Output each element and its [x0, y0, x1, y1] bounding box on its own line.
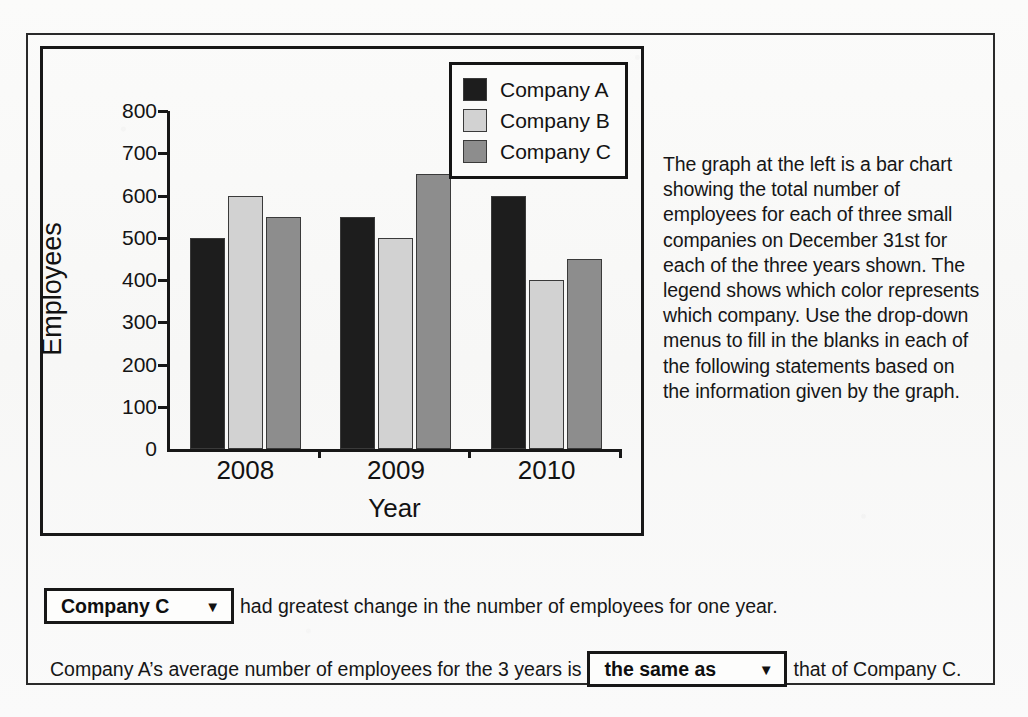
x-tick-label: 2009 [321, 455, 472, 486]
bar-company-a-2009 [340, 217, 375, 449]
company-dropdown[interactable]: Company C ▼ [44, 588, 234, 624]
legend-item-label: Company B [500, 109, 610, 133]
y-tick-mark [158, 364, 168, 367]
statement-2-trailing-text: that of Company C. [787, 658, 967, 681]
x-axis-line [167, 449, 622, 452]
y-tick-label: 200 [87, 353, 157, 377]
legend-color-swatch [463, 140, 487, 163]
y-tick-mark [158, 237, 168, 240]
x-tick-label: 2010 [471, 455, 622, 486]
bar-company-c-2010 [567, 259, 602, 449]
chart-legend: Company ACompany BCompany C [449, 62, 628, 179]
y-tick-label: 300 [87, 310, 157, 334]
y-tick-mark [158, 321, 168, 324]
y-tick-mark [158, 152, 168, 155]
bar-company-b-2010 [529, 280, 564, 449]
y-axis-title: Employees [37, 179, 68, 399]
bar-company-a-2008 [190, 238, 225, 449]
y-tick-label: 800 [87, 99, 157, 123]
y-tick-label: 600 [87, 184, 157, 208]
y-tick-label: 400 [87, 268, 157, 292]
legend-item: Company C [463, 136, 611, 167]
bar-company-b-2008 [228, 196, 263, 450]
y-axis-tick-labels: 0100200300400500600700800 [89, 111, 167, 449]
bar-company-b-2009 [378, 238, 413, 449]
y-tick-label: 0 [87, 437, 157, 461]
x-tick-label: 2008 [170, 455, 321, 486]
statement-row-1: Company C ▼ had greatest change in the n… [44, 588, 784, 624]
x-axis-tick-labels: 200820092010 [167, 455, 622, 491]
legend-item-label: Company C [500, 140, 611, 164]
y-tick-mark [158, 195, 168, 198]
y-tick-mark [158, 110, 168, 113]
statement-row-2: Company A’s average number of employees … [44, 651, 967, 687]
statement-2-leading-text: Company A’s average number of employees … [44, 658, 587, 681]
bar-company-c-2008 [266, 217, 301, 449]
legend-color-swatch [463, 109, 487, 132]
legend-item: Company B [463, 105, 611, 136]
comparison-dropdown[interactable]: the same as ▼ [587, 651, 787, 687]
y-tick-label: 100 [87, 395, 157, 419]
legend-item-label: Company A [500, 78, 609, 102]
instructions-paragraph: The graph at the left is a bar chart sho… [663, 152, 983, 404]
statement-1-trailing-text: had greatest change in the number of emp… [234, 595, 784, 618]
x-axis-title: Year [167, 493, 622, 524]
y-tick-label: 500 [87, 226, 157, 250]
y-tick-mark [158, 406, 168, 409]
legend-item: Company A [463, 74, 611, 105]
chevron-down-icon: ▼ [205, 599, 220, 614]
y-tick-mark [158, 279, 168, 282]
legend-color-swatch [463, 78, 487, 101]
company-dropdown-value: Company C [61, 595, 169, 618]
bar-group-2008 [170, 111, 321, 449]
bar-company-a-2010 [491, 196, 526, 450]
plot-area: Employees 0100200300400500600700800 2008… [43, 49, 641, 533]
chevron-down-icon: ▼ [759, 662, 774, 677]
bar-chart-panel: Employees 0100200300400500600700800 2008… [40, 46, 644, 536]
bar-company-c-2009 [416, 174, 451, 449]
y-tick-label: 700 [87, 141, 157, 165]
comparison-dropdown-value: the same as [604, 658, 716, 681]
